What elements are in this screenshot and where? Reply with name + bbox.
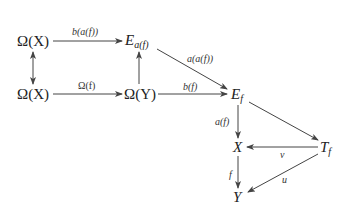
- node-e-f-sub: f: [240, 93, 243, 104]
- diagram-arrows: [0, 0, 351, 209]
- node-e-f: Ef: [231, 87, 243, 104]
- node-omega-x-top: Ω(X): [17, 34, 49, 49]
- label-a-f: a(f): [215, 117, 229, 127]
- node-omega-x-bottom: Ω(X): [17, 87, 49, 102]
- node-e-af-base: E: [125, 32, 134, 48]
- node-t-f: Tf: [320, 140, 331, 157]
- label-b-f: b(f): [183, 82, 197, 92]
- label-u: u: [282, 175, 287, 185]
- label-v: v: [280, 150, 284, 160]
- node-e-af: Ea(f): [125, 33, 149, 50]
- node-y: Y: [233, 190, 241, 205]
- node-e-af-sub: a(f): [134, 39, 148, 50]
- label-a-a-f: a(a(f)): [187, 54, 213, 64]
- node-x: X: [233, 140, 242, 155]
- node-t-f-sub: f: [328, 146, 331, 157]
- node-omega-y: Ω(Y): [124, 87, 156, 102]
- label-b-a-f: b(a(f)): [72, 27, 98, 37]
- arrow-ef-to-tf: [249, 102, 318, 140]
- node-e-f-base: E: [231, 86, 240, 102]
- label-f: f: [229, 170, 232, 180]
- label-omega-f: Ω(f): [78, 81, 95, 91]
